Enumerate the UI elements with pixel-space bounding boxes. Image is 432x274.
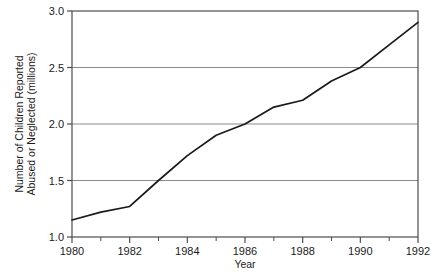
y-axis-tick-label: 1.5 — [49, 175, 64, 187]
x-axis-title: Year — [234, 258, 256, 270]
x-axis-tick-label: 1980 — [60, 245, 84, 257]
y-axis-tick-label: 2.5 — [49, 62, 64, 74]
x-axis-tick-label: 1986 — [233, 245, 257, 257]
chart-figure: 1.01.52.02.53.0 198019821984198619881990… — [0, 0, 432, 274]
x-axis-tick-label: 1984 — [175, 245, 199, 257]
x-axis-tick-label: 1988 — [290, 245, 314, 257]
y-axis-title-line-1: Number of Children Reported — [13, 55, 25, 192]
x-axis-tick-label: 1992 — [406, 245, 430, 257]
x-axis-tick-label: 1982 — [117, 245, 141, 257]
chart-background — [0, 0, 432, 274]
y-axis-tick-label: 1.0 — [49, 231, 64, 243]
y-axis-tick-label: 3.0 — [49, 5, 64, 17]
y-axis-title-line-2: Abused or Neglected (millions) — [25, 53, 37, 196]
line-chart: 1.01.52.02.53.0 198019821984198619881990… — [0, 0, 432, 274]
x-axis-tick-label: 1990 — [348, 245, 372, 257]
y-axis-tick-label: 2.0 — [49, 118, 64, 130]
